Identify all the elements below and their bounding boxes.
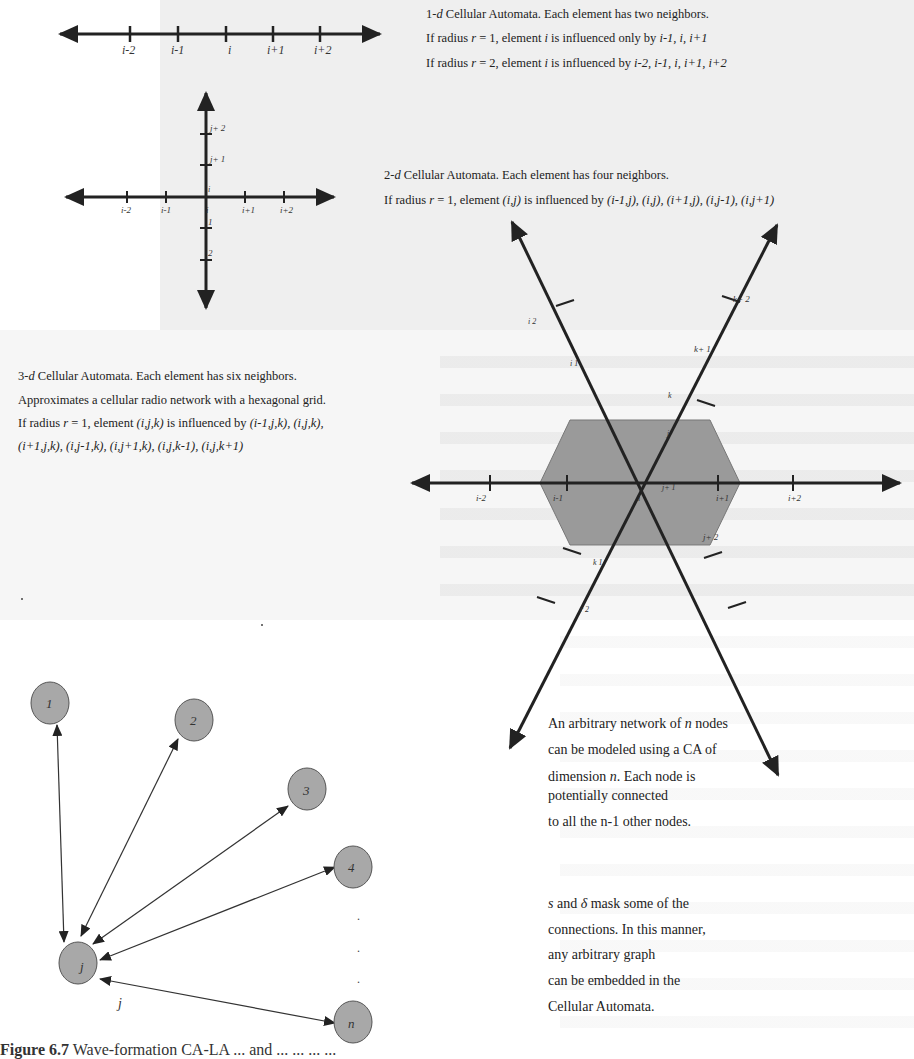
- axis-label: i 1: [570, 359, 578, 368]
- text: n: [685, 716, 692, 731]
- text: = 1, element: [476, 31, 545, 45]
- graph-node-4: 4: [334, 846, 372, 888]
- tick-label: i: [208, 185, 210, 194]
- tick-label: i+1: [267, 43, 284, 57]
- text-3d-hexgrid: Approximates a cellular radio network wi…: [18, 394, 326, 407]
- caption-label: Figure 6.7: [0, 1041, 69, 1058]
- text-3d-radius1: If radius r = 1, element (i,j,k) is infl…: [18, 417, 324, 430]
- ellipsis-dot: .: [357, 941, 360, 955]
- text-3d-radius1-cont: (i+1,j,k), (i,j-1,k), (i,j+1,k), (i,j,k-…: [18, 440, 243, 453]
- text-graph-line5: to all the n-1 other nodes.: [548, 815, 691, 829]
- text: and: [553, 896, 580, 911]
- tick-label: i-2: [122, 43, 135, 57]
- text: If radius: [18, 416, 63, 430]
- text: Cellular Automata. Each element has two …: [443, 7, 709, 21]
- text: An arbitrary network of: [548, 716, 685, 731]
- text-1d-radius1: If radius r = 1, element i is influenced…: [426, 32, 707, 45]
- text: nodes: [692, 716, 728, 731]
- tick-label: i-2: [121, 205, 131, 215]
- text: (i,j): [503, 193, 521, 207]
- axis-label: r 2: [580, 605, 589, 614]
- axis-label: k+ 2: [733, 294, 750, 304]
- figure-caption: Figure 6.7 Wave-formation CA-LA ... and …: [0, 1041, 336, 1059]
- text: (i,j,k): [137, 416, 164, 430]
- node-label: n: [348, 1016, 355, 1031]
- graph-node-n: n: [334, 1001, 372, 1043]
- text: n: [610, 769, 617, 784]
- axis-label: j+ 1: [661, 483, 676, 492]
- tick-label: i+2: [280, 205, 294, 215]
- text: = 2, element: [476, 56, 545, 70]
- text: = 1, element: [68, 416, 137, 430]
- axis-label: k+ 1: [694, 344, 711, 354]
- text-mask-line5: Cellular Automata.: [548, 1000, 655, 1014]
- ellipsis-dot: .: [357, 972, 360, 986]
- tick-label: j+ 2: [209, 123, 226, 133]
- tick-label: i+1: [242, 205, 255, 215]
- text: (i-1,j), (i,j), (i+1,j), (i,j-1), (i,j+1…: [607, 193, 774, 207]
- axis-1d: i-2 i-1 i i+1 i+2: [60, 26, 380, 57]
- axes-3d-hex: i-2 i-1 i i+1 i+2 k+ 2 k+ 1 k j j+ 1 j+ …: [412, 222, 900, 776]
- text: is influenced by: [548, 56, 634, 70]
- node-j-caption: j: [116, 996, 122, 1011]
- tick-label: 1: [208, 217, 213, 227]
- text: 2-: [384, 168, 394, 182]
- text: If radius: [426, 56, 471, 70]
- axes-2d: i-2 i-1 i i+1 i+2 j+ 2 j+ 1 i 1 2: [66, 93, 334, 308]
- caption-text: Wave-formation CA-LA ... and ... ... ...…: [69, 1041, 336, 1058]
- graph-node-2: 2: [175, 699, 213, 741]
- text: = 1, element: [434, 193, 503, 207]
- text: Cellular Automata. Each element has six …: [35, 369, 297, 383]
- node-label: 2: [190, 713, 197, 728]
- tick-label: 2: [208, 248, 213, 258]
- text: is influenced by: [164, 416, 250, 430]
- tick-label: j+ 1: [209, 154, 225, 164]
- text: (i-1,j,k), (i,j,k),: [250, 416, 324, 430]
- text-graph-line3: dimension n. Each node is: [548, 770, 695, 784]
- text: 3-: [18, 369, 28, 383]
- text-3d-title: 3-d Cellular Automata. Each element has …: [18, 370, 297, 383]
- text-mask-line1: s and δ mask some of the: [548, 897, 689, 911]
- node-label: 1: [46, 696, 53, 711]
- text: mask some of the: [587, 896, 689, 911]
- text: i-2, i-1, i, i+1, i+2: [634, 56, 727, 70]
- text: . Each node is: [617, 769, 696, 784]
- node-label: 4: [348, 860, 355, 875]
- dot: [21, 598, 23, 600]
- text-mask-line4: can be embedded in the: [548, 974, 680, 988]
- tick-label: i+2: [314, 43, 331, 57]
- text-1d-title: 1-d Cellular Automata. Each element has …: [426, 8, 709, 21]
- text: dimension: [548, 769, 610, 784]
- axis-label: k: [668, 391, 672, 400]
- axis-label: j+ 2: [702, 532, 719, 542]
- text-2d-title: 2-d Cellular Automata. Each element has …: [384, 169, 669, 182]
- tick-label: i-1: [161, 205, 171, 215]
- text-graph-line2: can be modeled using a CA of: [548, 743, 717, 757]
- text: Cellular Automata. Each element has four…: [401, 168, 669, 182]
- graph-node-j: j: [59, 942, 97, 984]
- text: is influenced only by: [548, 31, 659, 45]
- tick-label: i-2: [476, 493, 486, 503]
- text-1d-radius2: If radius r = 2, element i is influenced…: [426, 57, 727, 70]
- axis-label: i 2: [528, 317, 536, 326]
- text-graph-line1: An arbitrary network of n nodes: [548, 717, 728, 731]
- node-label: 3: [302, 783, 310, 798]
- tick-label: i: [228, 43, 231, 57]
- ellipsis-dot: .: [357, 909, 360, 923]
- text: If radius: [426, 31, 471, 45]
- tick-label: i-1: [171, 43, 184, 57]
- tick-label: i+2: [788, 493, 802, 503]
- tick-label: i: [206, 205, 209, 215]
- text: (i+1,j,k), (i,j-1,k), (i,j+1,k), (i,j,k-…: [18, 439, 243, 453]
- axis-label: k 1: [593, 558, 603, 567]
- text: i-1, i, i+1: [659, 31, 707, 45]
- tick-label: i: [638, 494, 640, 503]
- dot: [261, 624, 263, 626]
- text: is influenced by: [521, 193, 607, 207]
- tick-label: i+1: [716, 493, 729, 503]
- text: If radius: [384, 193, 429, 207]
- tick-label: i-1: [553, 493, 563, 503]
- graph-node-1: 1: [31, 682, 69, 724]
- text: 1-: [426, 7, 436, 21]
- network-graph: 1 2 3 4 j n j . . .: [31, 682, 372, 1043]
